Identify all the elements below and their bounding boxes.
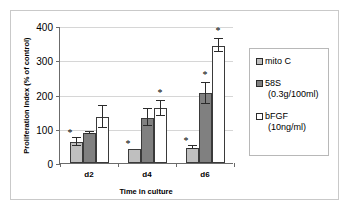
bar-slot: * [154, 27, 167, 163]
legend-sublabel: (10ng/ml) [268, 122, 328, 133]
y-axis-tick-label: 400 [36, 22, 53, 33]
y-axis-tick-label: 200 [36, 90, 53, 101]
error-bar-cap [188, 145, 197, 146]
plot-area: 0100200300400*d2**d4***d6 [59, 27, 233, 164]
bar-slot: * [128, 27, 141, 163]
significance-asterisk: * [184, 137, 189, 145]
y-axis-title: Proliferation Index (% of control) [20, 27, 32, 164]
legend-row: mito C [256, 56, 328, 67]
error-bar [102, 106, 103, 128]
error-bar-cap [98, 105, 107, 106]
error-bar-cap [98, 127, 107, 128]
bar-group: ***d6 [176, 27, 234, 163]
error-bar-cap [156, 100, 165, 101]
bar-slot [83, 27, 96, 163]
legend-label: bFGF [265, 111, 288, 122]
y-axis-title-text: Proliferation Index (% of control) [22, 37, 31, 153]
y-axis-tick-label: 0 [47, 159, 53, 170]
legend-label: mito C [265, 56, 291, 67]
x-axis-tick [234, 163, 235, 167]
error-bar-cap [156, 115, 165, 116]
bar-group: *d2 [60, 27, 118, 163]
y-axis-tick-label: 300 [36, 56, 53, 67]
chart-figure: Proliferation Index (% of control) 01002… [10, 10, 339, 200]
x-axis-tick [60, 163, 61, 167]
bar-slot: * [199, 27, 212, 163]
bar[interactable] [154, 108, 167, 163]
bar-slot [141, 27, 154, 163]
error-bar-cap [201, 103, 210, 104]
chart-legend: mito C58S(0.3g/100ml)bFGF(10ng/ml) [249, 48, 329, 156]
legend-entry[interactable]: bFGF(10ng/ml) [256, 111, 328, 133]
legend-swatch-icon [256, 58, 263, 65]
bar-slot: * [212, 27, 225, 163]
bar-slot: * [186, 27, 199, 163]
bar-group-bars: ** [118, 27, 176, 163]
legend-sublabel: (0.3g/100ml) [268, 89, 328, 100]
bar[interactable] [128, 149, 141, 163]
error-bar-cap [143, 125, 152, 126]
significance-asterisk: * [68, 129, 73, 137]
error-bar [205, 83, 206, 105]
error-bar-cap [143, 108, 152, 109]
bar-group: **d4 [118, 27, 176, 163]
legend-label: 58S [265, 78, 281, 89]
error-bar-cap [85, 133, 94, 134]
x-axis-category-label: d4 [118, 170, 176, 179]
error-bar-cap [188, 148, 197, 149]
error-bar-cap [72, 145, 81, 146]
significance-asterisk: * [126, 140, 131, 148]
x-axis-title: Time in culture [59, 187, 233, 196]
x-axis-category-label: d6 [176, 170, 234, 179]
x-axis-tick [176, 163, 177, 167]
error-bar [160, 101, 161, 116]
legend-row: bFGF [256, 111, 328, 122]
legend-entry[interactable]: mito C [256, 56, 328, 67]
legend-entry[interactable]: 58S(0.3g/100ml) [256, 78, 328, 100]
error-bar-cap [85, 131, 94, 132]
bar-group-bars: *** [176, 27, 234, 163]
error-bar [147, 109, 148, 126]
bar[interactable] [186, 148, 199, 163]
bar-group-bars: * [60, 27, 118, 163]
significance-asterisk: * [216, 27, 221, 35]
error-bar [218, 39, 219, 53]
y-axis-tick-label: 100 [36, 124, 53, 135]
error-bar-cap [214, 51, 223, 52]
bar-slot: * [70, 27, 83, 163]
legend-swatch-icon [256, 80, 263, 87]
bar[interactable] [83, 133, 96, 163]
legend-row: 58S [256, 78, 328, 89]
legend-swatch-icon [256, 113, 263, 120]
significance-asterisk: * [203, 71, 208, 79]
significance-asterisk: * [158, 89, 163, 97]
x-axis-tick [118, 163, 119, 167]
error-bar-cap [201, 82, 210, 83]
bar[interactable] [212, 46, 225, 163]
bar-slot [96, 27, 109, 163]
error-bar-cap [214, 38, 223, 39]
x-axis-category-label: d2 [60, 170, 118, 179]
error-bar-cap [72, 137, 81, 138]
